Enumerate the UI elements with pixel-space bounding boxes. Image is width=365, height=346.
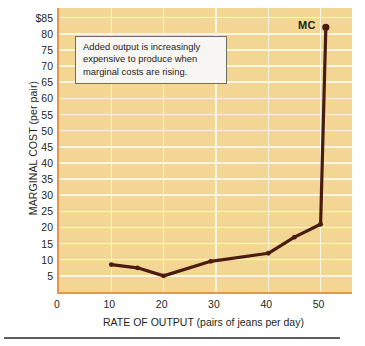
x-tick-label: 20	[142, 298, 182, 310]
y-tick-label: 50	[8, 125, 53, 137]
x-axis-title: RATE OF OUTPUT (pairs of jeans per day)	[57, 316, 350, 328]
y-tick-label: 45	[8, 141, 53, 153]
y-tick-label: 15	[8, 238, 53, 250]
y-tick-label: 20	[8, 221, 53, 233]
data-point	[161, 273, 166, 278]
y-tick-label: 40	[8, 157, 53, 169]
data-point	[318, 222, 323, 227]
data-point	[135, 265, 140, 270]
y-axis-tick-labels: 5101520253035404550556065707580$85	[8, 8, 53, 292]
x-tick-label: 0	[37, 298, 77, 310]
data-point	[292, 235, 297, 240]
data-point	[109, 262, 114, 267]
annotation-line-2: expensive to produce when	[83, 53, 220, 65]
y-tick-label: $85	[8, 12, 53, 24]
y-tick-label: 80	[8, 28, 53, 40]
annotation-line-3: marginal costs are rising.	[83, 66, 220, 78]
y-tick-label: 5	[8, 270, 53, 282]
y-tick-label: 70	[8, 60, 53, 72]
y-tick-label: 25	[8, 205, 53, 217]
x-tick-label: 40	[246, 298, 286, 310]
x-tick-label: 30	[194, 298, 234, 310]
y-tick-label: 65	[8, 76, 53, 88]
data-point	[322, 24, 329, 31]
marginal-cost-chart: MARGINAL COST (per pair) 510152025303540…	[0, 0, 365, 346]
y-tick-label: 10	[8, 254, 53, 266]
bottom-divider	[4, 337, 340, 339]
x-tick-label: 50	[299, 298, 339, 310]
y-tick-label: 55	[8, 109, 53, 121]
series-label-mc: MC	[298, 19, 316, 31]
data-point	[208, 259, 213, 264]
annotation-line-1: Added output is increasingly	[83, 41, 220, 53]
y-tick-label: 30	[8, 189, 53, 201]
data-point	[266, 251, 271, 256]
y-tick-label: 75	[8, 44, 53, 56]
x-tick-label: 10	[89, 298, 129, 310]
y-tick-label: 35	[8, 173, 53, 185]
annotation-callout: Added output is increasingly expensive t…	[75, 36, 227, 84]
y-tick-label: 60	[8, 92, 53, 104]
x-axis-tick-labels: 01020304050	[0, 298, 365, 314]
